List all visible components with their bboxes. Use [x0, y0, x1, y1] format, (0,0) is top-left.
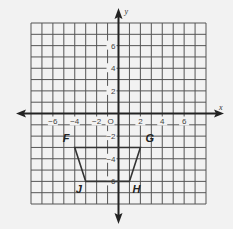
y-tick-label: 6: [111, 42, 116, 51]
x-tick-label: 4: [160, 117, 165, 126]
x-tick-label: −2: [92, 117, 102, 126]
vertex-label-f: F: [63, 132, 70, 144]
x-tick-label: −6: [48, 117, 58, 126]
y-axis-label: y: [124, 7, 129, 16]
vertex-label-h: H: [132, 183, 141, 195]
vertex-label-j: J: [76, 183, 83, 195]
origin-label: O: [107, 117, 113, 126]
x-tick-label: 6: [182, 117, 187, 126]
coordinate-grid: xy −6−4−2246O642−2−4−6 FGHJ: [0, 0, 233, 229]
y-tick-label: 2: [111, 87, 116, 96]
y-tick-label: −4: [106, 155, 116, 164]
y-tick-label: 4: [111, 64, 116, 73]
x-tick-label: −4: [70, 117, 80, 126]
x-axis-label: x: [218, 103, 223, 112]
vertex-label-g: G: [145, 132, 154, 144]
axes: xy: [16, 7, 224, 224]
x-tick-label: 2: [138, 117, 143, 126]
y-tick-label: −2: [106, 132, 116, 141]
